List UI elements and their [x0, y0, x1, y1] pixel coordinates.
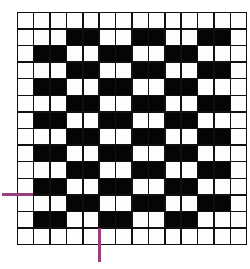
grid-cell [116, 146, 131, 161]
grid-cell [149, 13, 164, 28]
grid-cell [51, 30, 66, 45]
grid-cell [166, 162, 181, 177]
grid-cell [116, 63, 131, 78]
grid-cell [84, 229, 99, 244]
grid-cell [67, 13, 82, 28]
grid-cell [133, 13, 148, 28]
grid-cell [34, 79, 49, 94]
grid-cell [67, 79, 82, 94]
grid-cell [182, 63, 197, 78]
grid-cell [166, 229, 181, 244]
grid-cell [182, 146, 197, 161]
grid-cell [166, 129, 181, 144]
grid-cell [84, 46, 99, 61]
grid-cell [198, 79, 213, 94]
grid-cell [67, 146, 82, 161]
grid-cell [100, 129, 115, 144]
grid-cell [51, 179, 66, 194]
grid-cell [67, 212, 82, 227]
grid-cell [100, 63, 115, 78]
grid-cell [133, 63, 148, 78]
grid-cell [166, 13, 181, 28]
grid-cell [67, 129, 82, 144]
grid-cell [51, 162, 66, 177]
grid-cell [166, 212, 181, 227]
grid-cell [100, 229, 115, 244]
grid-cell [84, 113, 99, 128]
grid-cell [34, 63, 49, 78]
grid-cell [149, 63, 164, 78]
grid-cell [182, 96, 197, 111]
grid-cell [116, 30, 131, 45]
grid-cell [100, 79, 115, 94]
grid-cell [67, 179, 82, 194]
grid-cell [116, 79, 131, 94]
grid-cell [133, 196, 148, 211]
grid-cell [133, 162, 148, 177]
grid-cell [182, 196, 197, 211]
grid-cell [18, 196, 33, 211]
grid-cell [231, 46, 246, 61]
grid-cell [182, 229, 197, 244]
grid-cell [116, 13, 131, 28]
grid-cell [133, 96, 148, 111]
grid-cell [18, 162, 33, 177]
grid-cell [133, 129, 148, 144]
grid-cell [18, 212, 33, 227]
grid-cell [100, 146, 115, 161]
grid-cell [116, 96, 131, 111]
grid-cell [51, 129, 66, 144]
grid-cell [149, 30, 164, 45]
grid-cell [18, 229, 33, 244]
pattern-grid [17, 12, 247, 245]
grid-cell [116, 212, 131, 227]
grid-cell [198, 113, 213, 128]
grid-cell [166, 179, 181, 194]
grid-cell [51, 79, 66, 94]
grid-cell [84, 13, 99, 28]
grid-cell [231, 196, 246, 211]
grid-cell [133, 229, 148, 244]
grid-cell [149, 196, 164, 211]
grid-cell [51, 63, 66, 78]
grid-cell [67, 96, 82, 111]
grid-cell [100, 179, 115, 194]
grid-cell [149, 146, 164, 161]
grid-cell [215, 212, 230, 227]
grid-cell [231, 13, 246, 28]
grid-cell [166, 113, 181, 128]
grid-cell [166, 46, 181, 61]
grid-cell [34, 129, 49, 144]
grid-cell [215, 63, 230, 78]
grid-cell [166, 146, 181, 161]
grid-cell [166, 96, 181, 111]
grid-cell [149, 113, 164, 128]
grid-cell [182, 162, 197, 177]
grid-cell [198, 196, 213, 211]
grid-cell [166, 30, 181, 45]
grid-cell [51, 113, 66, 128]
grid-cell [231, 30, 246, 45]
grid-cell [215, 96, 230, 111]
grid-cell [116, 229, 131, 244]
grid-cell [84, 146, 99, 161]
grid-cell [84, 212, 99, 227]
grid-cell [18, 146, 33, 161]
grid-cell [231, 179, 246, 194]
grid-cell [100, 30, 115, 45]
grid-cell [215, 30, 230, 45]
grid-cell [100, 13, 115, 28]
grid-cell [84, 79, 99, 94]
grid-cell [34, 96, 49, 111]
grid-cell [84, 63, 99, 78]
grid-cell [51, 146, 66, 161]
grid-cell [51, 96, 66, 111]
grid-cell [182, 79, 197, 94]
grid-cell [34, 229, 49, 244]
grid-cell [34, 46, 49, 61]
grid-cell [34, 179, 49, 194]
grid-cell [51, 46, 66, 61]
grid-cell [133, 146, 148, 161]
grid-cell [182, 13, 197, 28]
grid-cell [133, 30, 148, 45]
